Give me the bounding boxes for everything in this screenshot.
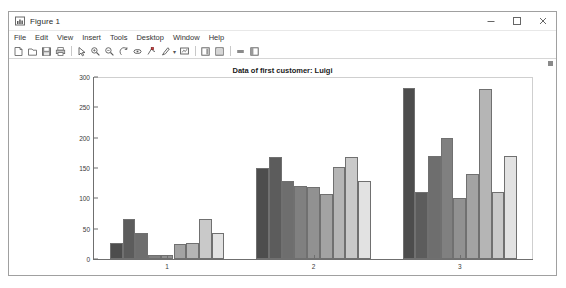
x-tick-mark xyxy=(314,255,315,259)
bar[interactable] xyxy=(256,168,269,259)
y-tick-label: 200 xyxy=(79,134,94,141)
new-figure-icon[interactable] xyxy=(12,45,25,58)
menu-item-insert[interactable]: Insert xyxy=(82,31,101,44)
bars-layer xyxy=(94,77,533,259)
menu-item-tools[interactable]: Tools xyxy=(110,31,128,44)
y-tick-mark xyxy=(94,137,98,138)
bar[interactable] xyxy=(148,255,161,259)
link-plot-icon[interactable] xyxy=(178,45,191,58)
menu-item-file[interactable]: File xyxy=(14,31,26,44)
bar[interactable] xyxy=(110,243,123,259)
rotate-3d-icon[interactable] xyxy=(131,45,144,58)
toolbar-separator xyxy=(230,46,231,56)
y-tick-mark xyxy=(94,77,98,78)
toolbar-separator xyxy=(71,46,72,56)
menu-item-desktop[interactable]: Desktop xyxy=(136,31,164,44)
bar[interactable] xyxy=(186,243,199,259)
window-title: Figure 1 xyxy=(30,17,60,26)
figure-icon xyxy=(14,15,26,27)
hide-plot-tools-icon[interactable] xyxy=(234,45,247,58)
bar[interactable] xyxy=(135,233,148,259)
menu-item-help[interactable]: Help xyxy=(209,31,224,44)
y-tick-label: 250 xyxy=(79,104,94,111)
bar[interactable] xyxy=(294,186,307,259)
figure-canvas[interactable]: Data of first customer: Luigi 0501001502… xyxy=(9,59,556,275)
menu-item-edit[interactable]: Edit xyxy=(35,31,48,44)
minimize-button[interactable] xyxy=(478,12,504,31)
menubar: File Edit View Insert Tools Desktop Wind… xyxy=(9,31,556,44)
brush-dropdown-caret-icon[interactable]: ▾ xyxy=(173,48,176,55)
bar[interactable] xyxy=(333,167,346,259)
y-tick-label: 300 xyxy=(79,74,94,81)
bar[interactable] xyxy=(123,219,136,259)
bar[interactable] xyxy=(441,138,454,259)
zoom-in-icon[interactable] xyxy=(89,45,102,58)
insert-colorbar-icon[interactable] xyxy=(199,45,212,58)
bar[interactable] xyxy=(428,156,441,259)
bar[interactable] xyxy=(269,157,282,259)
open-file-icon[interactable] xyxy=(26,45,39,58)
maximize-button[interactable] xyxy=(504,12,530,31)
x-tick-label: 2 xyxy=(312,259,316,270)
insert-legend-icon[interactable] xyxy=(213,45,226,58)
bar[interactable] xyxy=(415,192,428,259)
bar[interactable] xyxy=(282,181,295,259)
desktop-background: Figure 1 xyxy=(0,0,566,288)
bar[interactable] xyxy=(479,89,492,259)
bar[interactable] xyxy=(199,219,212,259)
bar[interactable] xyxy=(466,174,479,259)
plot-area[interactable]: 050100150200250300 123 xyxy=(93,77,533,260)
window-controls xyxy=(478,12,556,31)
menu-item-window[interactable]: Window xyxy=(173,31,200,44)
bar[interactable] xyxy=(504,156,517,259)
toolbar: ▾ xyxy=(9,44,556,59)
brush-data-icon[interactable] xyxy=(159,45,172,58)
figure-window: Figure 1 xyxy=(8,11,557,276)
y-tick-mark xyxy=(94,259,98,260)
y-tick-mark xyxy=(94,228,98,229)
bar[interactable] xyxy=(307,187,320,259)
bar[interactable] xyxy=(453,198,466,259)
y-tick-mark xyxy=(94,168,98,169)
data-cursor-icon[interactable] xyxy=(145,45,158,58)
y-tick-mark xyxy=(94,107,98,108)
x-tick-label: 1 xyxy=(165,259,169,270)
bar[interactable] xyxy=(320,194,333,259)
edit-plot-pointer-icon[interactable] xyxy=(75,45,88,58)
bar[interactable] xyxy=(174,244,187,259)
menu-item-view[interactable]: View xyxy=(57,31,73,44)
bar[interactable] xyxy=(212,233,225,259)
x-tick-mark xyxy=(167,255,168,259)
close-button[interactable] xyxy=(530,12,556,31)
toolbar-separator xyxy=(195,46,196,56)
zoom-out-icon[interactable] xyxy=(103,45,116,58)
pan-icon[interactable] xyxy=(117,45,130,58)
bar[interactable] xyxy=(358,181,371,259)
y-tick-label: 50 xyxy=(83,225,94,232)
bar[interactable] xyxy=(403,88,416,259)
window-titlebar[interactable]: Figure 1 xyxy=(9,12,556,31)
y-tick-mark xyxy=(94,198,98,199)
x-tick-mark xyxy=(460,255,461,259)
bar[interactable] xyxy=(345,157,358,259)
save-figure-icon[interactable] xyxy=(40,45,53,58)
y-tick-label: 0 xyxy=(86,256,94,263)
print-figure-icon[interactable] xyxy=(54,45,67,58)
bar[interactable] xyxy=(492,192,505,259)
y-tick-label: 100 xyxy=(79,195,94,202)
show-plot-tools-icon[interactable] xyxy=(248,45,261,58)
x-tick-label: 3 xyxy=(458,259,462,270)
y-tick-label: 150 xyxy=(79,165,94,172)
